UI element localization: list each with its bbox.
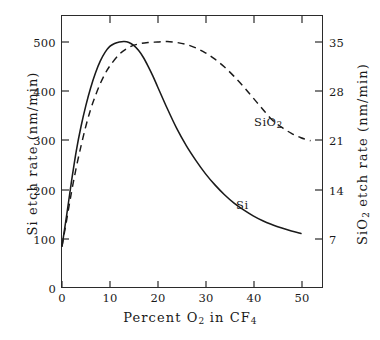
- y-axis-title-right-post: etch rate (nm/min): [355, 63, 370, 212]
- y-right-tick-label-14: 14: [329, 184, 355, 198]
- top-axis-ticks: [110, 16, 302, 23]
- chart-canvas: [0, 0, 380, 340]
- y-right-tick-label-21: 21: [329, 134, 355, 148]
- x-axis-title-pre: Percent O: [123, 310, 198, 325]
- y-axis-title-right: SiO2 etch rate (nm/min): [355, 34, 371, 274]
- series-label-sio2-pre: SiO: [254, 115, 276, 129]
- y-right-tick-label-35: 35: [329, 36, 355, 50]
- x-axis-title-subscript-cf4: 4: [251, 316, 257, 326]
- x-tick-label-40: 40: [234, 291, 274, 305]
- y-right-tick-label-28: 28: [329, 85, 355, 99]
- series-label-si: Si: [236, 198, 249, 212]
- x-tick-label-50: 50: [282, 291, 322, 305]
- series-label-sio2: SiO2: [254, 115, 282, 130]
- series-line-sio2: [62, 41, 311, 246]
- x-tick-label-20: 20: [138, 291, 178, 305]
- y-right-tick-label-7: 7: [329, 233, 355, 247]
- series-line-si: [62, 41, 301, 246]
- x-tick-label-30: 30: [186, 291, 226, 305]
- y-axis-title-right-pre: SiO: [355, 218, 370, 245]
- x-axis-ticks: [62, 281, 302, 288]
- y-axis-title-right-subscript: 2: [361, 212, 371, 218]
- series-label-sio2-subscript: 2: [276, 120, 282, 130]
- y-left-tick-label-0: 0: [18, 282, 56, 296]
- x-tick-label-10: 10: [90, 291, 130, 305]
- x-axis-title: Percent O2 in CF4: [0, 310, 380, 326]
- chart-figure: 0 10 20 30 40 50 0 100 200 300 400 500 7…: [0, 0, 380, 340]
- x-axis-title-mid: in CF: [204, 310, 250, 325]
- y-right-axis-ticks: [315, 42, 322, 239]
- y-axis-title-left: Si etch rate (nm/min): [25, 34, 40, 274]
